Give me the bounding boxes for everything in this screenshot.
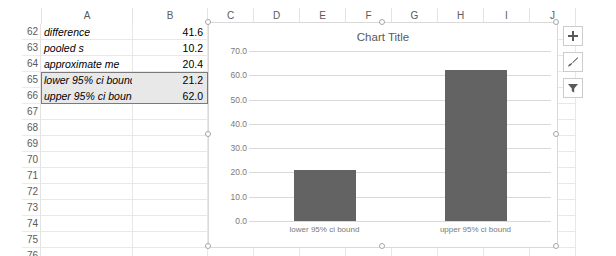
chart-elements-button[interactable] bbox=[563, 26, 583, 46]
cell-H76[interactable] bbox=[438, 248, 484, 256]
x-axis-label-1: upper 95% ci bound bbox=[400, 225, 551, 234]
row-header-63[interactable]: 63 bbox=[22, 40, 41, 56]
row-header-70[interactable]: 70 bbox=[22, 152, 41, 168]
cell-A70[interactable] bbox=[41, 152, 133, 168]
row-header-67[interactable]: 67 bbox=[22, 104, 41, 120]
cell-B66[interactable]: 62.0 bbox=[133, 88, 208, 104]
row-header-68[interactable]: 68 bbox=[22, 120, 41, 136]
cell-I76[interactable] bbox=[484, 248, 530, 256]
cell-A72[interactable] bbox=[41, 184, 133, 200]
row-header-64[interactable]: 64 bbox=[22, 56, 41, 72]
y-axis-tick-30.0: 30.0 bbox=[213, 144, 247, 153]
cell-J76[interactable] bbox=[530, 248, 576, 256]
x-axis-label-0: lower 95% ci bound bbox=[249, 225, 400, 234]
y-axis-tick-20.0: 20.0 bbox=[213, 168, 247, 177]
cell-A66[interactable]: upper 95% ci bound bbox=[41, 88, 133, 104]
row-header-66[interactable]: 66 bbox=[22, 88, 41, 104]
cell-B72[interactable] bbox=[133, 184, 208, 200]
gridline-70.0 bbox=[249, 51, 551, 52]
cell-B69[interactable] bbox=[133, 136, 208, 152]
bar-1[interactable] bbox=[445, 70, 507, 221]
cell-B68[interactable] bbox=[133, 120, 208, 136]
y-axis-tick-10.0: 10.0 bbox=[213, 193, 247, 202]
chart-side-buttons bbox=[563, 26, 585, 104]
row-header-65[interactable]: 65 bbox=[22, 72, 41, 88]
cell-D76[interactable] bbox=[254, 248, 300, 256]
chart-object[interactable]: Chart Title 70.060.050.040.030.020.010.0… bbox=[208, 22, 558, 248]
column-header-b[interactable]: B bbox=[133, 8, 208, 24]
cell-A63[interactable]: pooled s bbox=[41, 40, 133, 56]
cell-B76[interactable] bbox=[133, 248, 208, 256]
cell-A65[interactable]: lower 95% ci bound bbox=[41, 72, 133, 88]
cell-C76[interactable] bbox=[208, 248, 254, 256]
row-header-71[interactable]: 71 bbox=[22, 168, 41, 184]
cell-B73[interactable] bbox=[133, 200, 208, 216]
cell-A67[interactable] bbox=[41, 104, 133, 120]
gridline-0.0 bbox=[249, 221, 551, 222]
cell-A75[interactable] bbox=[41, 232, 133, 248]
row-header-73[interactable]: 73 bbox=[22, 200, 41, 216]
cell-G76[interactable] bbox=[392, 248, 438, 256]
cell-E76[interactable] bbox=[300, 248, 346, 256]
cell-B64[interactable]: 20.4 bbox=[133, 56, 208, 72]
cell-B65[interactable]: 21.2 bbox=[133, 72, 208, 88]
resize-handle-top-right[interactable] bbox=[553, 19, 559, 25]
cell-F76[interactable] bbox=[346, 248, 392, 256]
row-header-72[interactable]: 72 bbox=[22, 184, 41, 200]
y-axis-tick-0.0: 0.0 bbox=[213, 217, 247, 226]
row-header-75[interactable]: 75 bbox=[22, 232, 41, 248]
cell-B74[interactable] bbox=[133, 216, 208, 232]
y-axis-tick-40.0: 40.0 bbox=[213, 120, 247, 129]
chart-title[interactable]: Chart Title bbox=[209, 31, 557, 43]
y-axis-tick-50.0: 50.0 bbox=[213, 96, 247, 105]
resize-handle-bottom-center[interactable] bbox=[379, 243, 385, 249]
cell-A64[interactable]: approximate me bbox=[41, 56, 133, 72]
column-header-a[interactable]: A bbox=[41, 8, 133, 24]
y-axis-tick-70.0: 70.0 bbox=[213, 47, 247, 56]
chart-filters-button[interactable] bbox=[563, 78, 583, 98]
row-header-62[interactable]: 62 bbox=[22, 24, 41, 40]
cell-B75[interactable] bbox=[133, 232, 208, 248]
cell-A76[interactable] bbox=[41, 248, 133, 256]
cell-A69[interactable] bbox=[41, 136, 133, 152]
chart-plot-area: 70.060.050.040.030.020.010.00.0lower 95%… bbox=[249, 51, 551, 221]
y-axis-tick-60.0: 60.0 bbox=[213, 71, 247, 80]
cell-A62[interactable]: difference bbox=[41, 24, 133, 40]
cell-B67[interactable] bbox=[133, 104, 208, 120]
plus-icon bbox=[567, 30, 579, 42]
row-header-74[interactable]: 74 bbox=[22, 216, 41, 232]
cell-A73[interactable] bbox=[41, 200, 133, 216]
cell-A74[interactable] bbox=[41, 216, 133, 232]
resize-handle-bottom-right[interactable] bbox=[553, 243, 559, 249]
cell-B71[interactable] bbox=[133, 168, 208, 184]
spreadsheet-window: ABCDEFGHIJ 62636465666768697071727374757… bbox=[0, 0, 616, 256]
funnel-icon bbox=[567, 82, 579, 94]
resize-handle-top-left[interactable] bbox=[205, 19, 211, 25]
resize-handle-bottom-left[interactable] bbox=[205, 243, 211, 249]
resize-handle-middle-right[interactable] bbox=[553, 131, 559, 137]
cell-B63[interactable]: 10.2 bbox=[133, 40, 208, 56]
row-header-69[interactable]: 69 bbox=[22, 136, 41, 152]
resize-handle-top-center[interactable] bbox=[379, 19, 385, 25]
cell-B62[interactable]: 41.6 bbox=[133, 24, 208, 40]
cell-A68[interactable] bbox=[41, 120, 133, 136]
paintbrush-icon bbox=[567, 56, 579, 68]
cell-B70[interactable] bbox=[133, 152, 208, 168]
cell-A71[interactable] bbox=[41, 168, 133, 184]
bar-0[interactable] bbox=[294, 170, 356, 221]
row-header-76[interactable]: 76 bbox=[22, 248, 41, 256]
chart-styles-button[interactable] bbox=[563, 52, 583, 72]
resize-handle-middle-left[interactable] bbox=[205, 131, 211, 137]
